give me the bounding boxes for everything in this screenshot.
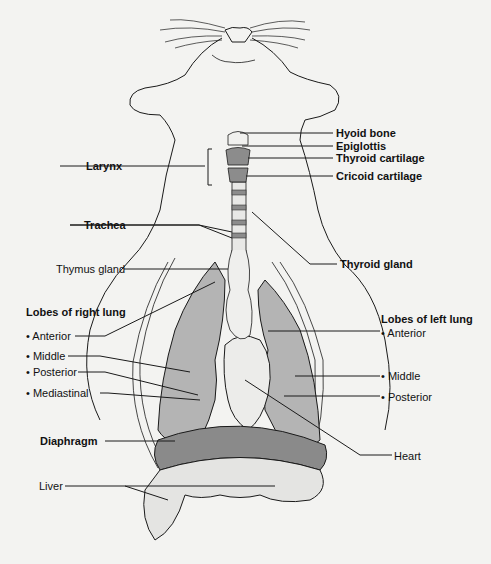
thymus-gland (226, 250, 252, 339)
label-left-posterior: • Posterior (381, 391, 432, 403)
label-left-middle: • Middle (381, 370, 420, 382)
label-right-mediastinal: • Mediastinal (26, 387, 89, 399)
label-hyoid-bone: Hyoid bone (336, 127, 396, 139)
heart (224, 336, 270, 430)
label-thymus-gland: Thymus gland (56, 263, 125, 275)
label-right-anterior: • Anterior (26, 330, 71, 342)
label-epiglottis: Epiglottis (336, 140, 386, 152)
label-larynx: Larynx (86, 160, 122, 172)
label-liver: Liver (39, 480, 63, 492)
cat-anatomy-illustration (0, 0, 491, 564)
label-cricoid-cartilage: Cricoid cartilage (336, 170, 422, 182)
head-outline (225, 27, 252, 42)
label-diaphragm: Diaphragm (40, 435, 97, 447)
label-right-middle: • Middle (26, 350, 65, 362)
right-lung (158, 262, 225, 443)
label-right-posterior: • Posterior (26, 366, 77, 378)
label-heart: Heart (394, 450, 421, 462)
heading-left-lung: Lobes of left lung (381, 313, 473, 325)
label-left-anterior: • Anterior (381, 327, 426, 339)
heading-right-lung: Lobes of right lung (26, 306, 126, 318)
larynx (226, 132, 250, 183)
whiskers (160, 20, 310, 48)
label-trachea: Trachea (84, 219, 126, 231)
liver (144, 458, 324, 541)
label-thyroid-cartilage: Thyroid cartilage (336, 152, 425, 164)
label-thyroid-gland: Thyroid gland (340, 258, 413, 270)
